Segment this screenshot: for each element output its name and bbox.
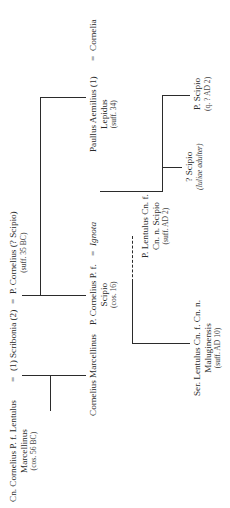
descent-line-maluginensis xyxy=(132,343,190,344)
q-scipio-name: ? Scipio xyxy=(184,143,195,190)
lentulus-scipio-cognomen: Cn. n. Scipio xyxy=(151,194,162,258)
node-p-scipio: P. Scipio (q. ? AD 2) xyxy=(192,77,213,111)
maluginensis-date: (suff. AD 10) xyxy=(213,300,224,396)
descent-line-scribonia-cornelius xyxy=(22,295,86,296)
paullus-name: Paullus Aemilius (1) xyxy=(88,76,99,152)
scipio-name: P. Cornelius P. f. xyxy=(88,264,99,325)
descent-line-q-scipio xyxy=(162,167,182,168)
dashed-bar-scipio-sons xyxy=(132,236,133,282)
marriage-sign-1: = xyxy=(8,377,18,382)
lentulus-cognomen: Marcellinus xyxy=(19,400,30,502)
node-p-cornelius: P. Cornelius (? Scipio) (suff. 35 BC) xyxy=(8,211,29,294)
p-scipio-name: P. Scipio xyxy=(192,77,203,111)
node-paullus-aemilius: Paullus Aemilius (1) Lepidus (suff. 34) xyxy=(88,76,120,152)
p-cornelius-date: (suff. 35 BC) xyxy=(19,211,30,294)
cornelius-marcellinus-name: Cornelius Marcellinus xyxy=(88,334,99,416)
lentulus-scipio-date: (suff. AD 2) xyxy=(161,194,172,258)
marriage-sign-2: = xyxy=(8,299,18,304)
bar-sons-of-scipio xyxy=(132,282,133,344)
node-maluginensis: Ser. Lentulus Cn. f. Cn. n. Maluginensis… xyxy=(192,300,224,396)
lentulus-scipio-name: P. Lentulus Cn. f. xyxy=(140,194,151,258)
node-lentulus-marcellinus: Cn. Cornelius P. f. Lentulus Marcellinus… xyxy=(8,400,40,502)
marriage-sign-4: = xyxy=(88,56,98,61)
node-lentulus-scipio: P. Lentulus Cn. f. Cn. n. Scipio (suff. … xyxy=(140,194,172,258)
p-cornelius-name: P. Cornelius (? Scipio) xyxy=(8,211,19,294)
ignota-name: Ignota xyxy=(88,222,99,246)
q-scipio-date: (Iuliae adulter) xyxy=(195,143,206,190)
node-p-cornelius-scipio: P. Cornelius P. f. Scipio (cos. 16) xyxy=(88,264,120,325)
descent-line-ignota xyxy=(100,191,162,192)
stemma-diagram: Cn. Cornelius P. f. Lentulus Marcellinus… xyxy=(0,0,230,508)
scipio-date: (cos. 16) xyxy=(109,264,120,325)
scipio-cognomen: Scipio xyxy=(99,264,110,325)
paullus-cognomen: Lepidus xyxy=(99,76,110,152)
node-ignota: Ignota xyxy=(88,222,99,246)
descent-line-cornelia xyxy=(40,97,86,98)
scribonia-name: (1) Scribonia (2) xyxy=(8,310,19,371)
node-q-scipio: ? Scipio (Iuliae adulter) xyxy=(184,143,205,190)
maluginensis-cognomen: Maluginensis xyxy=(203,300,214,396)
descent-line-p-scipio xyxy=(162,95,190,96)
p-scipio-date: (q. ? AD 2) xyxy=(203,77,214,111)
lentulus-date: (cos. 56 BC) xyxy=(29,400,40,502)
node-cornelia: Cornelia xyxy=(88,19,99,51)
cornelia-name: Cornelia xyxy=(88,19,99,51)
bar-scipio-cornelia xyxy=(40,97,41,296)
bar-marcellinus-arm xyxy=(50,375,51,411)
node-cornelius-marcellinus: Cornelius Marcellinus xyxy=(88,334,99,416)
descent-line-lentulus-scribonia xyxy=(22,375,51,376)
maluginensis-name: Ser. Lentulus Cn. f. Cn. n. xyxy=(192,300,203,396)
bar-ignota-children xyxy=(162,95,163,192)
descent-line-marcellinus xyxy=(50,375,86,376)
paullus-date: (suff. 34) xyxy=(109,76,120,152)
node-scribonia: (1) Scribonia (2) xyxy=(8,310,19,371)
lentulus-name: Cn. Cornelius P. f. Lentulus xyxy=(8,400,19,502)
marriage-sign-3: = xyxy=(88,251,98,256)
